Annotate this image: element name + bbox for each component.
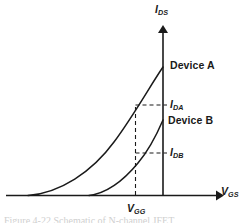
curve-device-a	[28, 67, 163, 196]
figure-container: IDS VGS VGG IDA IDB Device A Device B Fi…	[0, 0, 246, 223]
curve-label-device-a: Device A	[170, 60, 215, 71]
x-axis-label: VGS	[221, 186, 239, 197]
figure-caption: Figure 4-22 Schematic of N-channel JFET	[4, 215, 244, 223]
transfer-characteristic-plot	[0, 0, 246, 223]
ida-label: IDA	[170, 99, 184, 110]
curve-label-device-b: Device B	[168, 115, 213, 126]
y-axis-label: IDS	[155, 4, 168, 15]
y-axis-arrowhead	[158, 25, 168, 33]
vgg-label: VGG	[127, 203, 145, 214]
idb-label: IDB	[170, 147, 184, 158]
